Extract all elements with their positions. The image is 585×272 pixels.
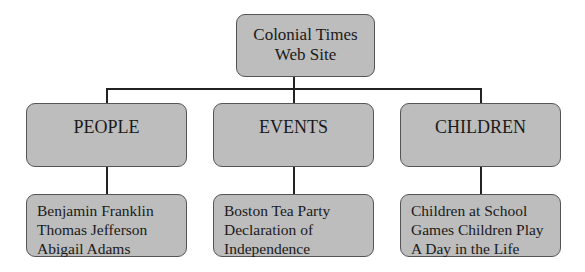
- connector-to-people: [106, 88, 108, 104]
- list-item: Benjamin Franklin: [37, 201, 186, 220]
- list-item: Declaration of: [224, 220, 373, 239]
- category-children: CHILDREN: [400, 103, 561, 167]
- list-item: Thomas Jefferson: [37, 220, 186, 239]
- category-label: CHILDREN: [435, 117, 526, 137]
- category-label: PEOPLE: [73, 117, 139, 137]
- connector-to-children: [480, 88, 482, 104]
- connector-children-leaf: [480, 166, 482, 195]
- list-item: Games Children Play: [411, 220, 560, 239]
- connector-events-leaf: [293, 166, 295, 195]
- category-events: EVENTS: [213, 103, 374, 167]
- list-item: Boston Tea Party: [224, 201, 373, 220]
- category-people: PEOPLE: [26, 103, 187, 167]
- root-line-2: Web Site: [237, 45, 374, 65]
- list-item: Children at School: [411, 201, 560, 220]
- connector-to-events: [293, 88, 295, 104]
- category-label: EVENTS: [259, 117, 328, 137]
- list-item: Independence: [224, 239, 373, 258]
- connector-people-leaf: [106, 166, 108, 195]
- list-item: A Day in the Life: [411, 239, 560, 258]
- root-node: Colonial Times Web Site: [236, 14, 375, 77]
- leaf-people: Benjamin Franklin Thomas Jefferson Abiga…: [26, 194, 187, 257]
- leaf-children: Children at School Games Children Play A…: [400, 194, 561, 257]
- list-item: Abigail Adams: [37, 239, 186, 258]
- leaf-events: Boston Tea Party Declaration of Independ…: [213, 194, 374, 257]
- root-line-1: Colonial Times: [237, 25, 374, 45]
